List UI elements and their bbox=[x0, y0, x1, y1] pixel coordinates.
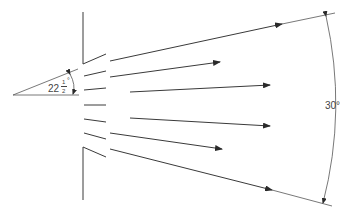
angle-label-22: 22 bbox=[48, 84, 59, 94]
jet-arrow-lower-mid bbox=[110, 133, 222, 149]
jet-arrow-lower-outer bbox=[110, 149, 272, 190]
jet-arrow-upper-outer bbox=[110, 24, 282, 61]
diagram-svg bbox=[0, 0, 350, 213]
vane-1 bbox=[84, 71, 106, 76]
angle-label-30: 30° bbox=[325, 101, 340, 111]
baffle-top-slant bbox=[83, 54, 106, 64]
vane-4 bbox=[84, 119, 106, 122]
vane-5 bbox=[84, 133, 106, 139]
extension-line-lower bbox=[272, 190, 332, 206]
jet-arrow-upper-mid bbox=[110, 62, 220, 77]
dimension-arc-22-5 bbox=[70, 74, 74, 94]
jet-arrow-upper-inner bbox=[130, 85, 270, 92]
fraction-bar bbox=[61, 86, 67, 87]
angle-label-denominator: 2 bbox=[62, 88, 65, 94]
angle-label-numerator: 1 bbox=[62, 79, 65, 85]
jet-spread-diagram: 22 1 2 ° 30° bbox=[0, 0, 350, 213]
baffle-bottom-slant bbox=[83, 147, 106, 157]
jet-arrow-lower-inner bbox=[130, 118, 270, 126]
vane-2 bbox=[84, 88, 106, 90]
angle-label-degree: ° bbox=[67, 77, 70, 84]
